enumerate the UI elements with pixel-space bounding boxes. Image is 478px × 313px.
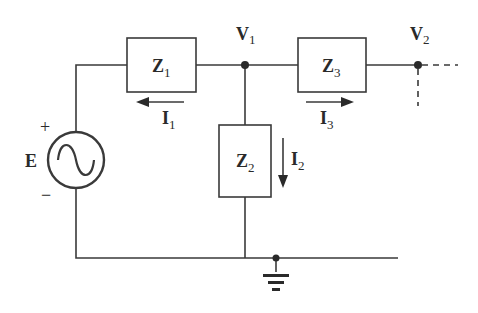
label-i3: I3 [320, 108, 334, 132]
label-minus: − [41, 185, 51, 205]
label-i1: I1 [162, 108, 176, 132]
node-ground-dot [273, 255, 280, 262]
ground-bar-2 [268, 281, 284, 284]
circuit-diagram: Z1 Z3 Z2 I1 I3 I2 V1 V2 E + − [0, 0, 478, 313]
ground-bar-3 [272, 288, 280, 291]
arrow-i3-head [341, 97, 354, 107]
node-v2-dot [414, 61, 422, 69]
label-i2: I2 [291, 149, 305, 173]
label-v1: V1 [236, 24, 256, 47]
node-v1-dot [241, 61, 249, 69]
label-v2: V2 [410, 24, 430, 47]
label-source-e: E [25, 151, 37, 171]
arrow-i1-head [136, 97, 149, 107]
ground-bar-1 [263, 274, 289, 277]
wire-left-top [76, 65, 127, 132]
label-plus: + [40, 117, 50, 137]
arrow-i2-head [278, 175, 288, 188]
wire-left-bottom [76, 188, 398, 258]
